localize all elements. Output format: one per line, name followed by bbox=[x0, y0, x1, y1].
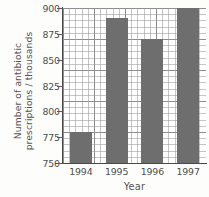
y-axis-tick-mark bbox=[57, 137, 63, 138]
y-axis-title: Number of antibiotic prescriptions / tho… bbox=[6, 6, 40, 176]
y-axis-tick-mark bbox=[57, 163, 63, 164]
y-axis-title-line-2: prescriptions / thousands bbox=[23, 32, 34, 151]
x-axis-tick-label: 1994 bbox=[69, 166, 92, 177]
bar-1995 bbox=[106, 18, 128, 163]
x-axis-tick-label: 1997 bbox=[176, 166, 199, 177]
x-axis-tick-label: 1995 bbox=[105, 166, 128, 177]
bar-1996 bbox=[141, 39, 163, 163]
y-axis-tick-mark bbox=[57, 8, 63, 9]
bar-1997 bbox=[177, 8, 199, 163]
y-axis-tick-mark bbox=[57, 111, 63, 112]
y-axis-title-line-1: Number of antibiotic bbox=[12, 43, 23, 139]
bar-chart: Number of antibiotic prescriptions / tho… bbox=[0, 0, 209, 197]
x-axis-tick-labels: 1994199519961997 bbox=[63, 166, 206, 180]
bar-1994 bbox=[70, 132, 92, 163]
y-axis-tick-labels: 750775800825850875900 bbox=[36, 0, 60, 197]
plot-area bbox=[63, 8, 206, 163]
y-axis-tick-mark bbox=[57, 86, 63, 87]
x-axis-tick-label: 1996 bbox=[141, 166, 164, 177]
y-axis-tick-mark bbox=[57, 60, 63, 61]
x-axis-title: Year bbox=[63, 181, 206, 192]
x-axis-line bbox=[55, 163, 207, 164]
y-axis-tick-mark bbox=[57, 34, 63, 35]
